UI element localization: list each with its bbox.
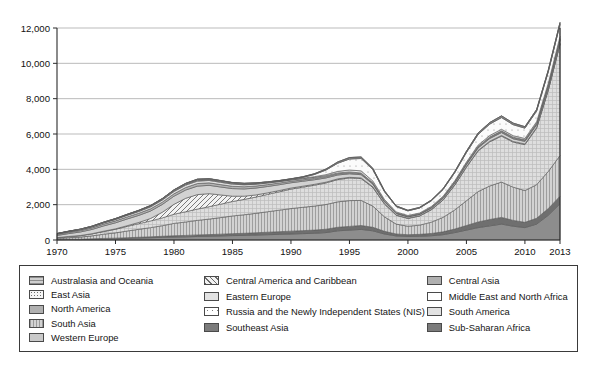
legend-swatch-icon (29, 305, 44, 314)
y-axis-tick-label: 8,000 (26, 93, 50, 104)
x-axis-tick-label: 1985 (222, 246, 243, 257)
legend-item[interactable]: Sub-Saharan Africa (427, 320, 571, 336)
legend-swatch-icon (29, 319, 44, 328)
legend-item-label: Australasia and Oceania (51, 276, 153, 285)
legend-item[interactable]: Western Europe (29, 331, 204, 345)
x-axis-tick-label: 1980 (163, 246, 184, 257)
x-axis-tick-label: 1990 (280, 246, 301, 257)
legend-column-2: Central America and CaribbeanEastern Eur… (204, 273, 427, 345)
y-axis-tick-label: 10,000 (21, 58, 50, 69)
legend-item[interactable]: Central America and Caribbean (204, 273, 427, 289)
legend-swatch-icon (427, 276, 442, 285)
x-axis-tick-label: 1970 (46, 246, 67, 257)
legend-swatch-icon (204, 292, 219, 301)
legend-item[interactable]: Central Asia (427, 273, 571, 289)
legend-item[interactable]: Eastern Europe (204, 289, 427, 305)
x-axis-tick-label: 2005 (456, 246, 477, 257)
legend-item-label: North America (51, 304, 110, 313)
legend-item[interactable]: Russia and the Newly Independent States … (204, 304, 427, 320)
chart-legend: Australasia and OceaniaEast AsiaNorth Am… (19, 265, 578, 352)
legend-item-label: Eastern Europe (226, 292, 291, 301)
legend-item[interactable]: Southeast Asia (204, 320, 427, 336)
legend-item-label: South Asia (51, 319, 96, 328)
legend-item-label: Middle East and North Africa (449, 292, 568, 301)
legend-item-label: Southeast Asia (226, 323, 289, 332)
legend-swatch-icon (204, 307, 219, 316)
y-axis-tick-label: 12,000 (21, 23, 50, 34)
legend-item[interactable]: Middle East and North Africa (427, 289, 571, 305)
y-axis-tick-label: 6,000 (26, 129, 50, 140)
legend-item[interactable]: North America (29, 302, 204, 316)
x-axis-tick-label: 2010 (514, 246, 535, 257)
legend-column-3: Central AsiaMiddle East and North Africa… (427, 273, 571, 345)
y-axis-tick-label: 0 (45, 235, 50, 246)
legend-item[interactable]: South America (427, 304, 571, 320)
legend-item-label: Western Europe (51, 333, 119, 342)
x-axis-tick-label: 2013 (549, 246, 570, 257)
legend-swatch-icon (204, 276, 219, 285)
legend-item-label: Russia and the Newly Independent States … (226, 307, 425, 316)
legend-swatch-icon (427, 307, 442, 316)
legend-item-label: South America (449, 307, 510, 316)
legend-item-label: Sub-Saharan Africa (449, 323, 530, 332)
legend-swatch-icon (29, 290, 44, 299)
legend-item[interactable]: East Asia (29, 287, 204, 301)
x-axis-tick-label: 1995 (339, 246, 360, 257)
legend-item[interactable]: Australasia and Oceania (29, 273, 204, 287)
x-axis-tick-label: 1975 (105, 246, 126, 257)
legend-swatch-icon (29, 333, 44, 342)
chart-canvas: 02,0004,0006,0008,00010,00012,0001970197… (0, 8, 598, 260)
legend-swatch-icon (204, 323, 219, 332)
x-axis-tick-label: 2000 (397, 246, 418, 257)
legend-column-1: Australasia and OceaniaEast AsiaNorth Am… (29, 273, 204, 345)
legend-item[interactable]: South Asia (29, 316, 204, 330)
legend-swatch-icon (427, 292, 442, 301)
legend-swatch-icon (29, 276, 44, 285)
y-axis-tick-label: 4,000 (26, 164, 50, 175)
legend-swatch-icon (427, 323, 442, 332)
legend-item-label: Central America and Caribbean (226, 276, 357, 285)
y-axis-tick-label: 2,000 (26, 199, 50, 210)
legend-item-label: Central Asia (449, 276, 500, 285)
legend-item-label: East Asia (51, 290, 90, 299)
area-chart: 02,0004,0006,0008,00010,00012,0001970197… (0, 8, 598, 260)
